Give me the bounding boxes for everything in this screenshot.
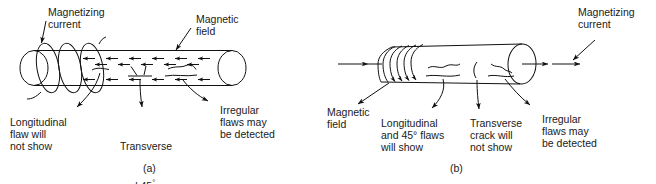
cylinder-a — [20, 51, 246, 86]
coil-a — [27, 37, 107, 99]
label-magnetic-field-b: Magnetic field — [327, 106, 370, 130]
leader-transverse-b — [477, 80, 479, 109]
flaw-transverse-a — [128, 66, 152, 76]
label-magnetizing-current-b: Magnetizing current — [578, 6, 635, 30]
label-magnetizing-current-a: Magnetizing current — [48, 6, 105, 30]
caption-panel-a: (a) — [143, 162, 156, 174]
leader-magnetizing-current-b — [573, 40, 595, 60]
figure-root: Magnetizing current Magnetic field Longi… — [0, 0, 656, 184]
leader-transverse-a — [140, 80, 142, 107]
field-rings-b — [383, 45, 423, 83]
leader-longitudinal-a — [77, 73, 100, 107]
label-irregular-flaws-b: Irregular flaws may be detected — [542, 113, 597, 150]
leader-magnetic-field-a — [176, 28, 191, 50]
leader-magnetic-field-b — [358, 83, 389, 104]
leader-irregular-a — [183, 80, 208, 101]
cylinder-b — [378, 44, 537, 85]
caption-panel-b: (b) — [450, 162, 463, 174]
panel-b-artwork — [338, 40, 595, 109]
degree-symbol-icon: ° — [152, 178, 155, 184]
label-transverse-line2: and 45° — [120, 177, 189, 184]
flaw-longitudinal-b — [426, 64, 460, 76]
label-magnetic-field-a: Magnetic field — [196, 13, 239, 37]
label-transverse-crack-b: Transverse crack will not show — [470, 117, 522, 154]
label-irregular-flaws-a: Irregular flaws may be detected — [220, 104, 275, 141]
label-transverse-line2-text: and 45 — [120, 180, 152, 184]
flaw-longitudinal-a — [92, 68, 109, 70]
flaw-transverse-b — [474, 62, 477, 78]
label-longitudinal-flaw-b: Longitudinal and 45° flaws will show — [381, 117, 444, 154]
leader-magnetizing-current-a — [42, 21, 47, 43]
label-transverse-line1: Transverse — [120, 140, 189, 152]
flaw-irregular-a — [165, 65, 197, 76]
label-longitudinal-flaw-a: Longitudinal flaw will not show — [10, 116, 67, 153]
